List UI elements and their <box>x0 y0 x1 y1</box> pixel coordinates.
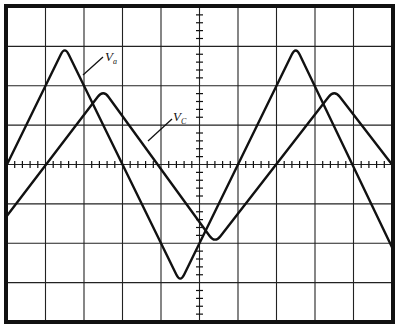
va-label: Va <box>105 49 117 66</box>
vc-leader-line <box>148 119 172 141</box>
oscilloscope-display: Va VC <box>0 0 400 328</box>
va-leader-line <box>83 57 103 75</box>
vc-label: VC <box>173 109 187 126</box>
